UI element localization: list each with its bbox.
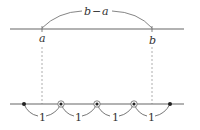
point-dot-3 [95, 102, 98, 105]
point-dot-5 [168, 102, 172, 106]
unit-label-1: 1 [39, 111, 46, 124]
point-a-label: a [39, 32, 46, 45]
point-dot-1 [22, 102, 26, 106]
arc-label-a: a [102, 5, 109, 18]
point-dot-2 [59, 102, 62, 105]
arc-label-minus: − [92, 5, 101, 18]
arc-b-minus-a-left [42, 11, 82, 28]
point-dot-4 [132, 102, 135, 105]
point-b-label: b [149, 34, 156, 47]
number-line-diagram: b − a a b 1 1 1 1 [0, 0, 200, 130]
arc-b-minus-a-right [112, 11, 152, 28]
unit-label-2: 1 [75, 111, 82, 124]
arc-label-b: b [84, 5, 91, 18]
unit-label-4: 1 [148, 111, 155, 124]
unit-label-3: 1 [112, 111, 119, 124]
